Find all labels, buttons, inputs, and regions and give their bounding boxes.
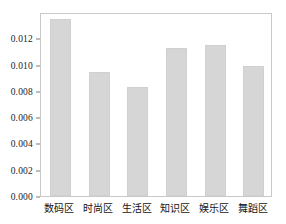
bar-chart: 0.0000.0020.0040.0060.0080.0100.012 数码区时… [0, 0, 286, 224]
x-tick-label: 舞蹈区 [238, 200, 268, 215]
y-tick-label: 0.008 [11, 87, 33, 97]
bar [127, 87, 148, 196]
y-tick-label: 0.006 [11, 113, 33, 123]
bar [205, 45, 226, 196]
y-tick-label: 0.010 [11, 61, 33, 71]
plot-area [41, 14, 271, 196]
y-tick-label: 0.004 [11, 139, 33, 149]
y-tick-label: 0.000 [11, 192, 33, 202]
bar [50, 19, 71, 196]
x-tick-label: 时尚区 [83, 200, 113, 215]
x-axis: 数码区时尚区生活区知识区娱乐区舞蹈区 [40, 199, 272, 221]
y-axis: 0.0000.0020.0040.0060.0080.0100.012 [0, 0, 40, 224]
bar [166, 48, 187, 197]
x-tick-label: 生活区 [122, 200, 152, 215]
x-tick-label: 娱乐区 [199, 200, 229, 215]
bar [89, 72, 110, 196]
plot-frame [40, 13, 272, 197]
y-tick-label: 0.012 [11, 34, 33, 44]
y-tick-label: 0.002 [11, 166, 33, 176]
x-tick-label: 数码区 [44, 200, 74, 215]
bar [243, 66, 264, 196]
x-tick-label: 知识区 [160, 200, 190, 215]
